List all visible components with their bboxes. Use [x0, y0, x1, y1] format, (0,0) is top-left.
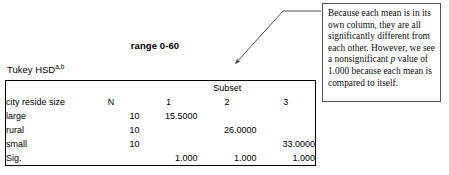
- row-rural-subset-3: [257, 123, 316, 137]
- row-large-n: 10: [83, 109, 140, 123]
- column-header-subset-1: 1: [140, 95, 198, 109]
- row-large-subset-2: [198, 109, 257, 123]
- page-title: range 0-60: [0, 40, 310, 51]
- table-header-row: city reside size N 1 2 3: [6, 95, 316, 109]
- annotation-callout: Because each mean is in its own column, …: [322, 3, 441, 102]
- header-blank-label: [6, 81, 83, 96]
- row-small-subset-1: [140, 137, 198, 151]
- row-small-subset-3: 33.0000: [257, 137, 316, 151]
- column-header-subset-2: 2: [198, 95, 257, 109]
- column-header-n: N: [83, 95, 140, 109]
- row-sig-subset-3: 1.000: [257, 151, 316, 166]
- row-sig-subset-1: 1.000: [140, 151, 198, 166]
- column-header-subset-3: 3: [257, 95, 316, 109]
- row-rural-subset-1: [140, 123, 198, 137]
- table-caption-text: Tukey HSD: [7, 64, 55, 75]
- row-sig-subset-2: 1.000: [198, 151, 257, 166]
- leader-line: [236, 11, 322, 64]
- header-blank-n: [83, 81, 140, 96]
- row-sig-n: [83, 151, 140, 166]
- table-row: large 10 15.5000: [6, 109, 316, 123]
- row-label-large: large: [6, 109, 83, 123]
- row-large-subset-1: 15.5000: [140, 109, 198, 123]
- row-label-sig: Sig.: [6, 151, 83, 166]
- column-header-city-reside-size: city reside size: [6, 95, 83, 109]
- row-small-subset-2: [198, 137, 257, 151]
- table-caption: Tukey HSDa,b: [7, 64, 64, 75]
- row-label-rural: rural: [6, 123, 83, 137]
- row-rural-n: 10: [83, 123, 140, 137]
- table-row: rural 10 26.0000: [6, 123, 316, 137]
- row-large-subset-3: [257, 109, 316, 123]
- tukey-hsd-table: Subset city reside size N 1 2 3 large 10…: [5, 80, 316, 166]
- row-label-small: small: [6, 137, 83, 151]
- table-row: Sig. 1.000 1.000 1.000: [6, 151, 316, 166]
- row-small-n: 10: [83, 137, 140, 151]
- table-header-group-row: Subset: [6, 81, 316, 96]
- table-caption-superscript: a,b: [55, 63, 64, 70]
- row-rural-subset-2: 26.0000: [198, 123, 257, 137]
- table-row: small 10 33.0000: [6, 137, 316, 151]
- column-group-header-subset: Subset: [140, 81, 316, 96]
